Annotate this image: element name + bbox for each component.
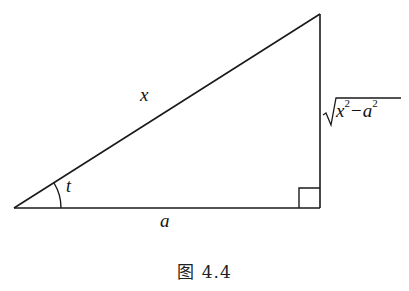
radicand: x2−a2 [336, 100, 378, 122]
hypotenuse-label: x [140, 84, 148, 106]
base-label: a [160, 210, 170, 232]
angle-arc [54, 183, 61, 208]
right-angle-marker [299, 188, 320, 208]
hypotenuse-line [14, 14, 320, 208]
triangle-figure: x t a x2−a2 图 4.4 [0, 0, 409, 291]
radicand-var-a: a [363, 100, 373, 121]
exponent-2: 2 [372, 97, 378, 109]
triangle-drawing [0, 0, 409, 291]
minus-sign: − [350, 100, 363, 121]
angle-label: t [66, 176, 71, 197]
figure-caption: 图 4.4 [0, 258, 409, 283]
exponent-1: 2 [344, 97, 350, 109]
